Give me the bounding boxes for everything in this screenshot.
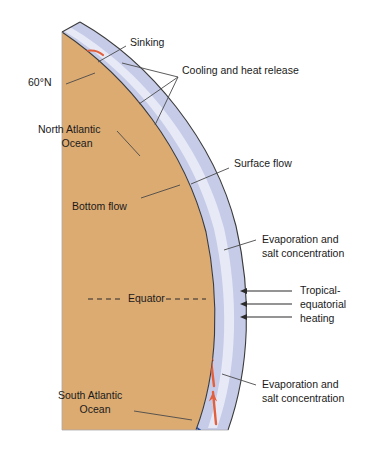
tropical-heating-arrows: [240, 288, 292, 320]
label-tropical-heating-line3: heating: [300, 312, 334, 325]
label-north-atlantic-ocean-line1: North Atlantic: [38, 123, 100, 136]
ocean-circulation-diagram: Sinking Cooling and heat release 60°N No…: [0, 0, 372, 456]
label-evaporation-north-line2: salt concentration: [262, 247, 344, 260]
label-cooling-and-heat-release: Cooling and heat release: [182, 64, 299, 77]
label-bottom-flow: Bottom flow: [72, 200, 127, 213]
label-evaporation-south-line2: salt concentration: [262, 392, 344, 405]
label-south-atlantic-ocean-line2: Ocean: [58, 403, 132, 416]
label-evaporation-south-line1: Evaporation and: [262, 378, 338, 391]
label-south-atlantic-ocean-line1: South Atlantic: [58, 389, 122, 402]
label-equator: Equator: [128, 292, 165, 305]
label-tropical-heating-line2: equatorial: [300, 298, 346, 311]
label-sinking: Sinking: [130, 36, 164, 49]
label-evaporation-north-line1: Evaporation and: [262, 233, 338, 246]
label-north-atlantic-ocean-line2: Ocean: [38, 137, 116, 150]
label-latitude-60n: 60°N: [28, 76, 51, 89]
label-surface-flow: Surface flow: [234, 157, 292, 170]
label-tropical-heating-line1: Tropical-: [300, 284, 340, 297]
